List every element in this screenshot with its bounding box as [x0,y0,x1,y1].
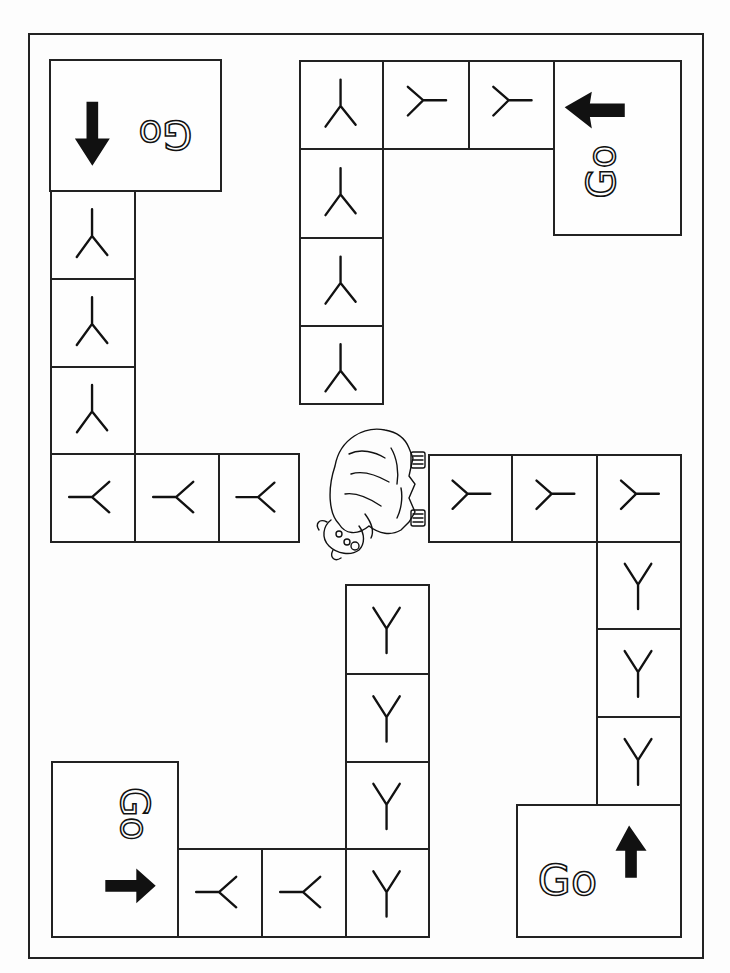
path-cell[interactable] [382,60,470,150]
go-label: Go [138,112,192,157]
arrow-down-icon [75,102,110,166]
path-cell[interactable] [596,628,682,718]
arrow-up-icon [615,825,646,877]
path-cell[interactable] [468,60,555,150]
path-cell[interactable] [596,541,682,630]
path-cell[interactable] [50,190,136,280]
path-cell[interactable] [596,454,682,543]
go-label: Go [579,145,624,199]
path-cell[interactable] [345,761,430,850]
svg-text:Go: Go [579,145,624,199]
path-cell[interactable] [345,673,430,763]
arrow-left-icon [565,92,625,129]
start-square-bottom-left[interactable]: Go [51,761,179,938]
path-cell[interactable] [299,237,384,327]
path-cell[interactable] [261,848,347,938]
path-cell[interactable] [345,584,430,675]
yak-illustration [305,418,430,563]
go-label: Go [538,855,597,905]
path-cell[interactable] [299,148,384,239]
path-cell[interactable] [177,848,263,938]
start-square-top-right[interactable]: Go [553,60,682,236]
path-cell[interactable] [218,453,300,543]
path-cell[interactable] [50,366,136,455]
path-cell[interactable] [596,716,682,806]
path-cell[interactable] [299,325,384,405]
path-cell[interactable] [50,453,136,543]
go-label: Go [112,787,157,841]
path-cell[interactable] [134,453,220,543]
svg-text:Go: Go [138,112,192,157]
path-cell[interactable] [345,848,430,938]
path-cell[interactable] [299,60,384,150]
path-cell[interactable] [511,454,598,543]
arrow-right-icon [105,868,155,903]
start-square-bottom-right[interactable]: Go [516,804,682,938]
path-cell[interactable] [428,454,513,543]
path-cell[interactable] [50,278,136,368]
svg-text:Go: Go [112,787,157,841]
start-square-top-left[interactable]: Go [49,59,222,192]
